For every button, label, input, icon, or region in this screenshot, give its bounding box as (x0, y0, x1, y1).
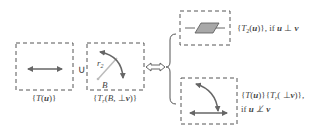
radius-label: r2 (97, 58, 104, 69)
plane-case-box: {T2(u)}, if u ⊥ v (180, 11, 299, 45)
diagram-canvas: {T(u)} ∪ r2 B {Tr(B, ⊥v)} {T2(u)}, if u … (0, 0, 325, 134)
translation-box: {T(u)} (16, 43, 73, 103)
rotation-box: r2 B {Tr(B, ⊥v)} (87, 43, 144, 104)
plane-case-label: {T2(u)}, if u ⊥ v (237, 23, 299, 34)
center-point-icon (97, 78, 100, 81)
plane-icon (195, 23, 219, 33)
point-b-label: B (102, 80, 108, 90)
translation-box-frame (16, 43, 73, 90)
brace-icon (166, 34, 176, 104)
combined-case-box-frame (181, 78, 237, 124)
combined-case-label-line2: if u ⊥̸ v (241, 104, 271, 114)
rotation-arrow-icon (196, 84, 218, 111)
rotation-label: {Tr(B, ⊥v)} (93, 93, 137, 104)
combined-case-label-line1: {T(u)}{Tr( ⊥v)}, (241, 90, 304, 101)
equivalence-arrow-icon (146, 63, 165, 71)
combined-case-box: {T(u)}{Tr( ⊥v)}, if u ⊥̸ v (181, 78, 304, 124)
rotation-box-frame (87, 43, 144, 90)
union-symbol: ∪ (78, 63, 86, 76)
translation-label: {T(u)} (32, 93, 57, 103)
